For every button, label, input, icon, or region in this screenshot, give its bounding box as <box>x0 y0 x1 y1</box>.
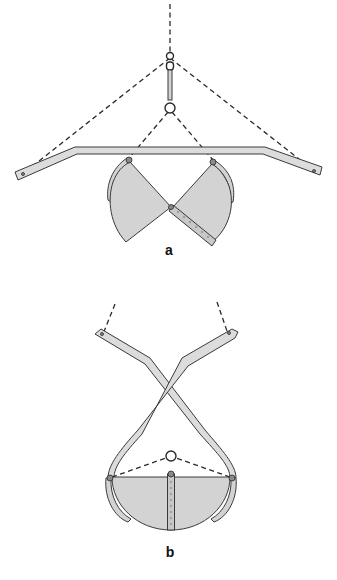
right-pivot-pin-b <box>229 475 235 481</box>
lower-ring-icon <box>165 103 175 113</box>
panel-label-b: b <box>160 545 180 559</box>
spreader-bar <box>15 147 322 180</box>
left-shell <box>110 162 171 242</box>
left-top-rope <box>103 304 115 334</box>
center-ring-icon <box>166 451 176 461</box>
right-inner-rope-b <box>176 458 230 477</box>
right-top-rope <box>217 302 228 334</box>
clamshell-grab-diagram: a b <box>0 0 337 580</box>
left-pivot-pin-b <box>107 475 113 481</box>
right-pivot-pin <box>210 159 216 165</box>
panel-a-open-grab <box>15 4 322 246</box>
top-hinge-pin <box>168 471 174 477</box>
panel-b-closed-grab <box>95 302 238 530</box>
panel-label-a: a <box>159 243 179 257</box>
left-pivot-pin <box>126 157 132 163</box>
center-hinge-pin <box>169 205 174 210</box>
left-outer-rope <box>25 58 170 172</box>
